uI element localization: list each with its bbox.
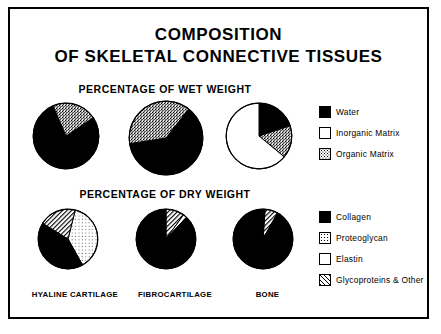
legend-item-elastin: Elastin [319,252,424,265]
legend-item-inorganic-matrix: Inorganic Matrix [319,126,400,139]
swatch-inorganic-matrix-icon [319,127,331,139]
swatch-elastin-icon [319,253,331,265]
pie-chart-fibro-wet [128,100,204,176]
section-header-wet-weight: PERCENTAGE OF WET WEIGHT [15,83,315,95]
figure-title: COMPOSITION OF SKELETAL CONNECTIVE TISSU… [10,24,427,68]
category-label-hyaline-cartilage: HYALINE CARTILAGE [15,290,135,299]
category-label-bone: BONE [225,290,310,299]
figure-root: COMPOSITION OF SKELETAL CONNECTIVE TISSU… [0,0,441,334]
pie-chart-bone-dry [232,208,294,270]
swatch-proteoglycan-icon [319,232,331,244]
legend-label-organic-matrix: Organic Matrix [336,149,394,159]
pie-chart-bone-wet [225,102,293,170]
legend-label-elastin: Elastin [336,254,363,264]
legend-label-glycoproteins-other: Glycoproteins & Other [336,275,424,285]
title-line-1: COMPOSITION [10,24,427,46]
figure-border-frame: COMPOSITION OF SKELETAL CONNECTIVE TISSU… [8,7,429,319]
legend-label-water: Water [336,107,359,117]
legend-label-collagen: Collagen [336,212,371,222]
legend-wet-weight: Water Inorganic Matrix Organic Matrix [319,105,400,168]
section-header-dry-weight: PERCENTAGE OF DRY WEIGHT [15,188,315,200]
legend-item-glycoproteins-other: Glycoproteins & Other [319,273,424,286]
pie-chart-fibro-dry [135,208,197,270]
legend-item-organic-matrix: Organic Matrix [319,147,400,160]
title-line-2: OF SKELETAL CONNECTIVE TISSUES [10,46,427,68]
legend-label-inorganic-matrix: Inorganic Matrix [336,128,400,138]
legend-dry-weight: Collagen Proteoglycan Elastin Glycoprote… [319,210,424,294]
legend-label-proteoglycan: Proteoglycan [336,233,388,243]
legend-item-proteoglycan: Proteoglycan [319,231,424,244]
swatch-glycoproteins-other-icon [319,274,331,286]
category-label-fibrocartilage: FIBROCARTILAGE [120,290,230,299]
swatch-organic-matrix-icon [319,148,331,160]
legend-item-collagen: Collagen [319,210,424,223]
swatch-collagen-icon [319,211,331,223]
pie-chart-hyaline-dry [37,208,99,270]
legend-item-water: Water [319,105,400,118]
swatch-water-icon [319,106,331,118]
pie-chart-hyaline-wet [32,102,100,170]
